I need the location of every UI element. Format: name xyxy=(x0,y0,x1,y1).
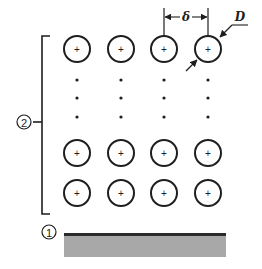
ellipsis-dot xyxy=(75,78,78,81)
ellipsis-dot xyxy=(119,78,122,81)
ellipsis-dot xyxy=(162,78,165,81)
array-bracket xyxy=(33,36,50,214)
ellipsis-dot xyxy=(75,115,78,118)
ellipsis-dot xyxy=(206,115,209,118)
particle: + xyxy=(195,140,221,166)
particle: + xyxy=(64,140,90,166)
particle: + xyxy=(64,180,90,206)
particle-center-mark: + xyxy=(161,44,167,55)
ellipsis-dot xyxy=(119,96,122,99)
ellipsis-dot xyxy=(119,115,122,118)
particle-center-mark: + xyxy=(205,188,211,199)
particle-center-mark: + xyxy=(118,148,124,159)
particle-center-mark: + xyxy=(205,148,211,159)
substrate-marker-text: 1 xyxy=(46,227,52,239)
particle: + xyxy=(108,36,134,62)
spacing-symbol: δ xyxy=(181,10,190,24)
substrate xyxy=(64,233,226,257)
particle-center-mark: + xyxy=(161,188,167,199)
particle-array-diagram: 2 ++++++++++++ δ D 1 xyxy=(0,0,262,269)
particle: + xyxy=(64,36,90,62)
particle: + xyxy=(151,180,177,206)
particle: + xyxy=(108,140,134,166)
spacing-dimension: δ xyxy=(164,8,208,36)
particle: + xyxy=(195,36,221,62)
particle-center-mark: + xyxy=(118,188,124,199)
ellipsis-dot xyxy=(162,96,165,99)
ellipsis-dot xyxy=(206,78,209,81)
array-marker-text: 2 xyxy=(21,117,27,129)
diameter-symbol: D xyxy=(234,10,246,24)
particle-center-mark: + xyxy=(74,188,80,199)
particle-center-mark: + xyxy=(205,44,211,55)
ellipsis-dot xyxy=(206,96,209,99)
particle: + xyxy=(108,180,134,206)
array-marker-label: 2 xyxy=(17,115,31,129)
particle: + xyxy=(151,36,177,62)
particle-grid: ++++++++++++ xyxy=(64,36,221,206)
particle: + xyxy=(151,140,177,166)
ellipsis-dot xyxy=(162,115,165,118)
particle-center-mark: + xyxy=(118,44,124,55)
particle-center-mark: + xyxy=(74,148,80,159)
ellipsis-dot xyxy=(75,96,78,99)
substrate-marker-label: 1 xyxy=(42,225,56,239)
particle: + xyxy=(195,180,221,206)
particle-center-mark: + xyxy=(74,44,80,55)
ellipsis-dots xyxy=(75,78,209,118)
particle-center-mark: + xyxy=(161,148,167,159)
